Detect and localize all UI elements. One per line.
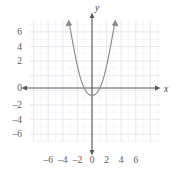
x-tick-labels: –6 –4 –2 0 2 4 6 — [42, 155, 138, 165]
x-tick-label: 2 — [104, 155, 109, 165]
y-tick-labels: 6 4 2 0 –2 –4 –6 — [12, 27, 23, 139]
x-axis-arrow-left — [22, 86, 28, 91]
y-axis-label: y — [94, 3, 100, 13]
x-tick-label: –6 — [42, 155, 53, 165]
x-tick-label: 6 — [133, 155, 138, 165]
x-tick-label-zero: 0 — [90, 155, 95, 165]
y-tick-label: 4 — [17, 42, 22, 52]
coordinate-graph-figure: 6 4 2 0 –2 –4 –6 –6 –4 –2 0 2 4 6 y x — [0, 0, 177, 175]
y-axis-arrow-top — [90, 13, 95, 19]
x-tick-label: 4 — [119, 155, 124, 165]
y-tick-label: –4 — [12, 115, 23, 125]
x-tick-label: –4 — [57, 155, 68, 165]
x-tick-label: –2 — [72, 155, 83, 165]
y-tick-label: –2 — [12, 100, 23, 110]
graph-canvas: 6 4 2 0 –2 –4 –6 –6 –4 –2 0 2 4 6 y x — [0, 0, 177, 175]
x-axis-label: x — [163, 84, 169, 94]
y-tick-label: 2 — [17, 56, 22, 66]
y-tick-label-zero: 0 — [17, 83, 22, 93]
y-tick-label: 6 — [17, 27, 22, 37]
y-tick-label: –6 — [12, 129, 23, 139]
